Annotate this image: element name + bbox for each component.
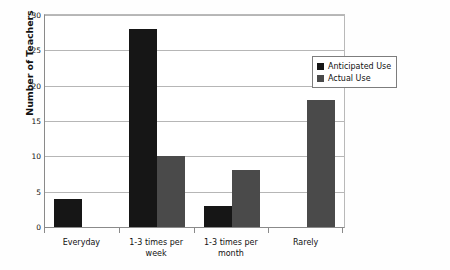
bar-group: [120, 15, 195, 227]
bar-group: [195, 15, 270, 227]
y-axis-tick-label: 25: [15, 46, 41, 55]
legend-swatch-anticipated-icon: [317, 63, 324, 70]
x-axis-tick: [194, 228, 195, 233]
y-axis-tick-label: 5: [15, 187, 41, 196]
bar-actual: [157, 156, 185, 227]
x-axis: Everyday1-3 times per week1-3 times per …: [44, 228, 345, 270]
legend-item-actual: Actual Use: [317, 72, 391, 84]
x-axis-tick: [342, 228, 343, 233]
y-axis-tick-label: 10: [15, 152, 41, 161]
y-axis-tick-label: 20: [15, 81, 41, 90]
bar-anticipated: [54, 199, 82, 227]
bar-group: [45, 15, 120, 227]
chart-legend: Anticipated Use Actual Use: [312, 56, 397, 88]
bar-actual: [232, 170, 260, 227]
bar-actual: [307, 100, 335, 227]
bar-group: [269, 15, 344, 227]
x-axis-tick-label: Rarely: [268, 237, 343, 248]
bar-anticipated: [204, 206, 232, 227]
bar-chart: Number of Teachers 051015202530 Everyday…: [0, 0, 450, 270]
y-axis-tick-label: 0: [15, 223, 41, 232]
x-axis-tick-label: 1-3 times per week: [119, 237, 194, 259]
plot-area: 051015202530: [44, 14, 345, 228]
y-axis-tick-label: 30: [15, 11, 41, 20]
legend-item-anticipated: Anticipated Use: [317, 60, 391, 72]
legend-label-actual: Actual Use: [328, 74, 371, 83]
x-axis-tick: [119, 228, 120, 233]
x-axis-tick-label: 1-3 times per month: [194, 237, 269, 259]
legend-swatch-actual-icon: [317, 75, 324, 82]
bar-anticipated: [129, 29, 157, 227]
x-axis-tick: [268, 228, 269, 233]
x-axis-tick-label: Everyday: [44, 237, 119, 248]
legend-label-anticipated: Anticipated Use: [328, 62, 391, 71]
bars-layer: [45, 15, 344, 227]
y-axis-tick-label: 15: [15, 117, 41, 126]
x-axis-tick: [44, 228, 45, 233]
